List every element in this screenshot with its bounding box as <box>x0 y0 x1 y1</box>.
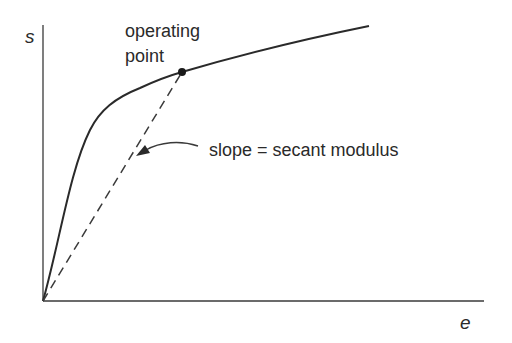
x-axis-label: e <box>460 312 471 333</box>
operating-point-label-line2: point <box>125 46 164 66</box>
secant-modulus-label: slope = secant modulus <box>209 140 399 160</box>
y-axis-label: s <box>25 26 35 47</box>
secant-line <box>43 72 182 301</box>
secant-modulus-diagram: s e operating point slope = secant modul… <box>0 0 512 343</box>
stress-strain-curve <box>43 26 369 301</box>
arrowhead-icon <box>136 145 150 156</box>
operating-point-marker <box>178 68 186 76</box>
annotation-arrow <box>146 143 198 150</box>
operating-point-label-line1: operating <box>125 21 200 41</box>
